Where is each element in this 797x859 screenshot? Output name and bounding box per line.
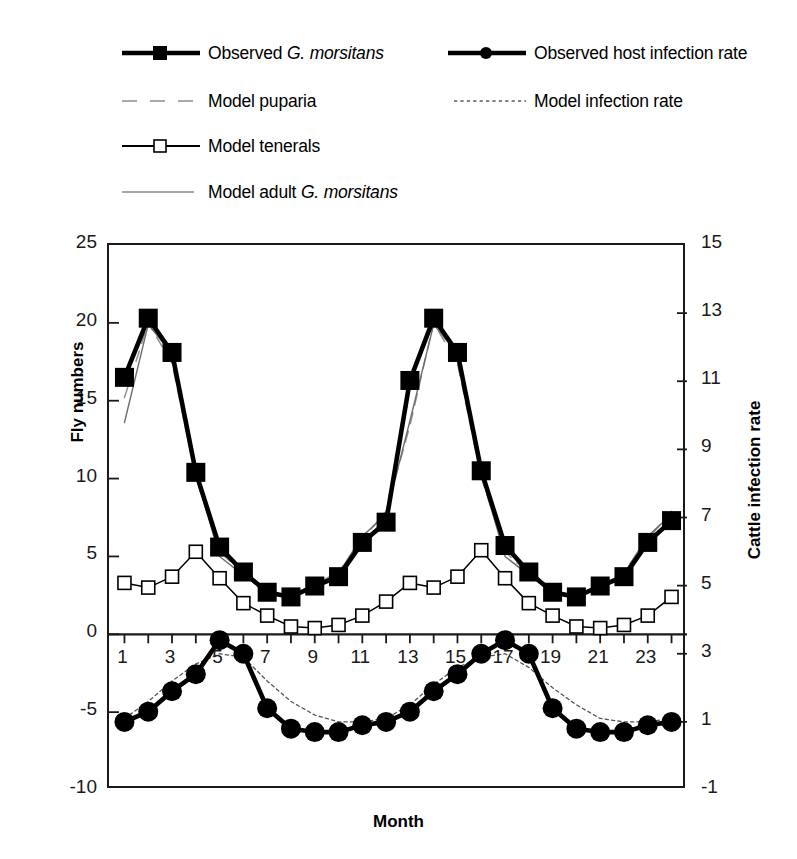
marker-open-square (332, 618, 345, 631)
marker-filled-circle (138, 702, 158, 722)
marker-open-square (142, 581, 155, 594)
x-tick-label: 1 (102, 646, 142, 668)
marker-open-square (308, 622, 321, 635)
x-tick-label: 7 (245, 646, 285, 668)
legend-key-dotted-line (448, 86, 526, 116)
legend-label: Model infection rate (534, 86, 683, 116)
marker-open-square (118, 576, 131, 589)
legend-key-thin-line-open-square (122, 131, 200, 161)
y-tick-label-right: 1 (701, 708, 749, 730)
marker-filled-square (139, 309, 158, 328)
legend-key-thick-line-filled-square (122, 38, 200, 68)
y-tick-label-left: 0 (49, 620, 97, 642)
marker-open-square (237, 597, 250, 610)
x-tick-label: 5 (198, 646, 238, 668)
marker-open-square (189, 545, 202, 558)
plot-area (107, 243, 685, 788)
chart-legend: Observed G. morsitans Observed host infe… (0, 0, 797, 210)
marker-filled-square (281, 587, 300, 606)
marker-open-square (546, 609, 559, 622)
marker-filled-square (305, 577, 324, 596)
marker-filled-square (448, 343, 467, 362)
marker-filled-circle (543, 698, 563, 718)
y-axis-left-title: Fly numbers (68, 292, 88, 492)
marker-filled-square (186, 463, 205, 482)
marker-filled-circle (162, 681, 182, 701)
x-tick-label: 9 (293, 646, 333, 668)
x-tick-label: 21 (578, 646, 618, 668)
marker-filled-circle (114, 712, 134, 732)
marker-filled-circle (376, 712, 396, 732)
marker-filled-circle (281, 719, 301, 739)
y-tick-label-right: 7 (701, 504, 749, 526)
marker-filled-circle (257, 698, 277, 718)
marker-filled-square (163, 343, 182, 362)
series-observed-g-morsitans (115, 309, 681, 607)
marker-filled-square (519, 563, 538, 582)
marker-filled-circle (662, 712, 682, 732)
marker-open-square (451, 570, 464, 583)
y-tick-label-right: -1 (701, 776, 749, 798)
marker-filled-square (258, 583, 277, 602)
x-tick-label: 15 (435, 646, 475, 668)
marker-filled-square (638, 533, 657, 552)
y-tick-label-left: 5 (49, 542, 97, 564)
marker-filled-square (662, 511, 681, 530)
series-line (124, 318, 671, 597)
y-tick-label-right: 13 (701, 299, 749, 321)
marker-open-square (356, 609, 369, 622)
marker-filled-square (234, 563, 253, 582)
legend-key-thick-line-filled-circle (448, 38, 526, 68)
marker-filled-circle (566, 719, 586, 739)
marker-filled-square (377, 513, 396, 532)
marker-open-square (284, 620, 297, 633)
marker-filled-square (567, 587, 586, 606)
marker-open-square (166, 570, 179, 583)
marker-filled-square (472, 461, 491, 480)
marker-filled-circle (638, 715, 658, 735)
x-tick-label: 23 (626, 646, 666, 668)
marker-filled-square (543, 583, 562, 602)
marker-open-square (427, 581, 440, 594)
x-tick-label: 11 (340, 646, 380, 668)
marker-open-square (403, 576, 416, 589)
marker-filled-square (115, 368, 134, 387)
y-tick-label-left: 25 (49, 231, 97, 253)
marker-filled-circle (352, 715, 372, 735)
marker-filled-circle (305, 722, 325, 742)
marker-filled-circle (590, 722, 610, 742)
marker-filled-square (614, 567, 633, 586)
marker-open-square (261, 609, 274, 622)
marker-open-square (475, 544, 488, 557)
x-tick-label: 3 (150, 646, 190, 668)
marker-filled-square (353, 533, 372, 552)
marker-filled-square (424, 309, 443, 328)
figure-container: Observed G. morsitans Observed host infe… (0, 0, 797, 859)
x-axis-title: Month (0, 812, 797, 832)
x-tick-label: 17 (483, 646, 523, 668)
y-tick-label-right: 9 (701, 435, 749, 457)
marker-open-square (213, 572, 226, 585)
marker-open-square (522, 597, 535, 610)
y-tick-label-left: -5 (49, 698, 97, 720)
marker-filled-square (329, 567, 348, 586)
y-axis-right-title: Cattle infection rate (745, 365, 765, 595)
marker-filled-square (496, 536, 515, 555)
y-tick-label-right: 5 (701, 572, 749, 594)
marker-filled-circle (424, 681, 444, 701)
marker-open-square (617, 618, 630, 631)
marker-open-square (641, 609, 654, 622)
marker-filled-square (400, 371, 419, 390)
marker-filled-circle (614, 722, 634, 742)
legend-label: Model adult G. morsitans (208, 177, 398, 207)
y-tick-label-left: -10 (49, 776, 97, 798)
x-tick-label: 19 (531, 646, 571, 668)
y-tick-label-right: 11 (701, 367, 749, 389)
legend-label: Model puparia (208, 86, 316, 116)
y-tick-label-right: 15 (701, 231, 749, 253)
y-tick-label-right: 3 (701, 640, 749, 662)
legend-key-thin-gray-line (122, 177, 200, 207)
legend-label: Model tenerals (208, 131, 320, 161)
marker-open-square (380, 595, 393, 608)
marker-open-square (665, 590, 678, 603)
